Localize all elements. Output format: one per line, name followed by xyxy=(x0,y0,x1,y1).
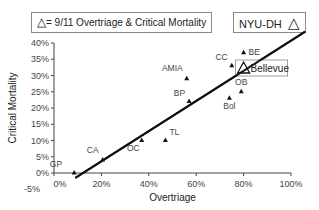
data-point-label: CA xyxy=(87,145,99,155)
data-point-label: OB xyxy=(235,77,248,87)
scatter-chart: -5%0%5%10%15%20%25%30%35%40%0%20%40%60%8… xyxy=(0,0,319,210)
data-point-label: BP xyxy=(174,88,186,98)
trendline-overlay xyxy=(75,32,305,178)
x-axis-title: Overtriage xyxy=(149,192,196,203)
y-tick-label: 40% xyxy=(31,38,49,48)
x-tick-label: 0% xyxy=(53,179,66,189)
data-point-triangle-icon xyxy=(241,50,246,55)
y-tick-label: 5% xyxy=(36,152,49,162)
data-point-triangle-icon xyxy=(239,89,244,94)
data-point-triangle-icon xyxy=(72,170,77,175)
data-point-triangle-icon xyxy=(229,63,234,68)
data-point-label: AMIA xyxy=(162,63,183,73)
data-point-triangle-icon xyxy=(163,138,168,143)
y-tick-label: 15% xyxy=(31,119,49,129)
data-point-triangle-icon xyxy=(184,76,189,81)
y-tick-label: 25% xyxy=(31,87,49,97)
data-point-label: GP xyxy=(50,159,63,169)
data-point-label: TL xyxy=(169,127,179,137)
x-tick-label: 60% xyxy=(187,179,205,189)
data-point-triangle-icon xyxy=(139,138,144,143)
y-tick-label: 0% xyxy=(36,168,49,178)
y-tick-label: 20% xyxy=(31,103,49,113)
data-point-label: CC xyxy=(215,52,227,62)
bellevue-label: Bellevue xyxy=(251,63,290,74)
x-tick-label: 40% xyxy=(140,179,158,189)
data-point-triangle-icon xyxy=(227,95,232,100)
y-tick-label: -5% xyxy=(24,184,40,194)
y-tick-label: 35% xyxy=(31,54,49,64)
x-tick-label: 100% xyxy=(279,179,302,189)
y-tick-label: 10% xyxy=(31,136,49,146)
data-point-label: Bol xyxy=(223,101,235,111)
x-tick-label: 80% xyxy=(235,179,253,189)
y-axis-title: Critical Mortality xyxy=(7,72,18,143)
x-tick-label: 20% xyxy=(92,179,110,189)
data-point-label: BE xyxy=(249,47,261,57)
data-point-triangle-icon xyxy=(187,99,192,104)
y-tick-label: 30% xyxy=(31,71,49,81)
